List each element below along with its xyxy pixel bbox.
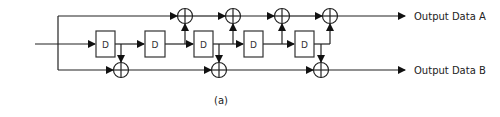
delay-block-3: D xyxy=(194,31,213,57)
svg-text:D: D xyxy=(102,40,109,50)
xor-adder-icon xyxy=(114,63,129,78)
xor-adder-icon xyxy=(226,9,241,24)
encoder-diagram: D D D D D O xyxy=(0,0,500,117)
xor-adder-icon xyxy=(178,9,193,24)
xor-adder-icon xyxy=(212,63,227,78)
xor-adder-icon xyxy=(275,9,290,24)
xor-adder-icon xyxy=(323,9,338,24)
xor-adder-icon xyxy=(314,63,329,78)
svg-text:D: D xyxy=(200,40,207,50)
svg-text:D: D xyxy=(301,40,308,50)
svg-text:D: D xyxy=(152,40,159,50)
figure-caption: (a) xyxy=(214,95,228,106)
delay-block-2: D xyxy=(145,31,165,57)
delay-block-4: D xyxy=(244,31,263,57)
output-b-label: Output Data B xyxy=(414,65,486,76)
svg-text:D: D xyxy=(250,40,257,50)
delay-block-1: D xyxy=(96,31,115,57)
output-a-label: Output Data A xyxy=(414,11,486,22)
delay-block-5: D xyxy=(295,31,314,57)
